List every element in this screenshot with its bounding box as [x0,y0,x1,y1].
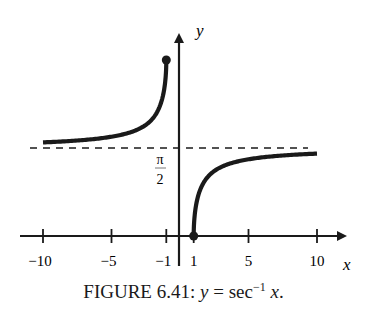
endpoint-dot [162,55,171,64]
x-tick-label: 5 [245,253,253,269]
x-tick-label: −10 [28,253,51,269]
plot-area: −10−5−11510 y x π 2 [0,0,367,318]
x-tick-label: 10 [310,253,325,269]
pi-label: π [156,152,163,167]
x-axis-label: x [342,255,351,274]
caption-sup: −1 [253,280,266,294]
caption-prefix: FIGURE 6.41: [83,281,200,302]
endpoint-dot [189,232,198,241]
figure-caption: FIGURE 6.41: y = sec−1 x. [0,280,367,303]
left-branch [43,60,166,142]
two-label: 2 [157,172,164,187]
x-tick-label: −5 [101,253,117,269]
y-axis-label: y [194,21,204,40]
x-tick-label: 1 [190,253,198,269]
caption-x: x [266,281,279,302]
right-branch [194,154,317,236]
caption-end: . [279,281,284,302]
caption-eq: = sec [208,281,252,302]
x-tick-label: −1 [155,253,171,269]
